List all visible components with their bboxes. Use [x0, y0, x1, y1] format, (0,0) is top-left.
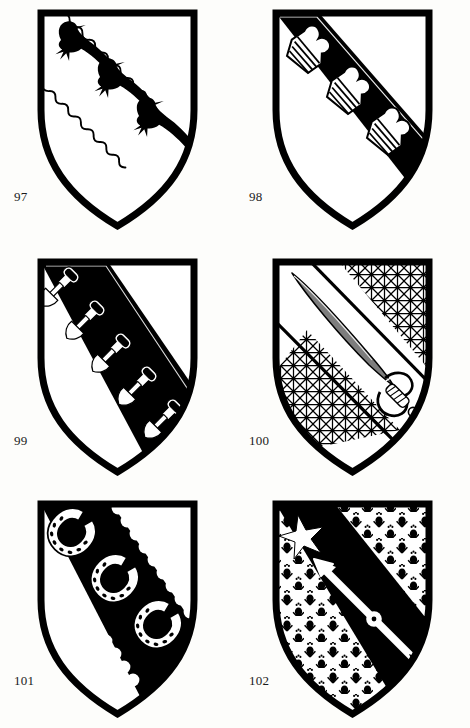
shield-caption-99: 99: [14, 434, 28, 447]
shield-cell-100: 100: [235, 242, 470, 484]
shield-caption-98: 98: [249, 190, 263, 203]
shield-figure-97: [0, 0, 235, 242]
shield-figure-99: [0, 242, 235, 484]
shield-cell-99: 99: [0, 242, 235, 484]
shield-cell-101: 101: [0, 486, 235, 728]
shield-cell-97: 97: [0, 0, 235, 242]
shield-drawing-102: [235, 486, 470, 728]
shield-drawing-97: [0, 0, 235, 242]
shield-figure-102: [235, 486, 470, 728]
shield-figure-100: [235, 242, 470, 484]
shield-caption-102: 102: [249, 674, 269, 687]
shield-drawing-100: [235, 242, 470, 484]
shield-drawing-99: [0, 242, 235, 484]
heraldry-plate: 97: [0, 0, 470, 728]
shield-figure-98: [235, 0, 470, 242]
shield-caption-100: 100: [249, 434, 269, 447]
shield-caption-97: 97: [14, 190, 28, 203]
shield-caption-101: 101: [14, 674, 34, 687]
shield-figure-101: [0, 486, 235, 728]
shield-drawing-98: [235, 0, 470, 242]
shield-cell-102: 102: [235, 486, 470, 728]
shield-cell-98: 98: [235, 0, 470, 242]
shield-drawing-101: [0, 486, 235, 728]
